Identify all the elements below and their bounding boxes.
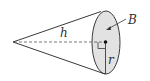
center-point bbox=[104, 40, 108, 44]
cone-diagram: h r B bbox=[0, 0, 150, 81]
label-height: h bbox=[60, 26, 68, 40]
cone-slant-top bbox=[13, 12, 101, 43]
label-base: B bbox=[127, 13, 137, 27]
cone-slant-bottom bbox=[13, 42, 105, 74]
